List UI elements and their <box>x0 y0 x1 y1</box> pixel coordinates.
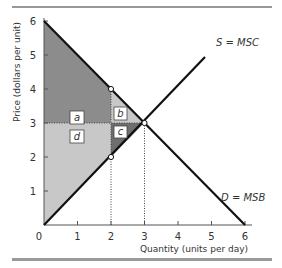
y-axis-title: Price (dollars per unit) <box>12 22 22 122</box>
point-q2-p4 <box>108 86 113 91</box>
area-b-label: b <box>117 108 123 119</box>
equilibrium-point <box>142 120 147 125</box>
area-a-label: a <box>74 112 80 123</box>
y-tick-6: 6 <box>30 16 36 27</box>
x-tick-4: 4 <box>175 231 181 242</box>
area-c-label: c <box>118 126 124 137</box>
x-tick-1: 1 <box>74 231 80 242</box>
bottom-rule <box>12 258 272 261</box>
y-tick-1: 1 <box>30 186 36 197</box>
y-tick-2: 2 <box>30 152 36 163</box>
y-tick-5: 5 <box>30 50 36 61</box>
demand-curve-label: D = MSB <box>221 192 265 203</box>
supply-curve-label: S = MSC <box>216 37 259 48</box>
x-tick-0: 0 <box>36 231 42 242</box>
y-tick-3: 3 <box>30 118 36 129</box>
x-tick-2: 2 <box>108 231 114 242</box>
x-ticks <box>78 221 246 225</box>
x-tick-5: 5 <box>208 231 214 242</box>
area-a-region <box>44 21 111 123</box>
area-d-label: d <box>74 131 81 142</box>
x-tick-6: 6 <box>242 231 248 242</box>
x-tick-3: 3 <box>141 231 147 242</box>
x-axis-title: Quantity (units per day) <box>140 244 248 254</box>
point-q2-p2 <box>108 154 113 159</box>
efficiency-chart: a b c d S = MSC D = MSB 1 2 3 4 5 6 0 1 … <box>0 0 282 268</box>
y-tick-4: 4 <box>30 84 36 95</box>
